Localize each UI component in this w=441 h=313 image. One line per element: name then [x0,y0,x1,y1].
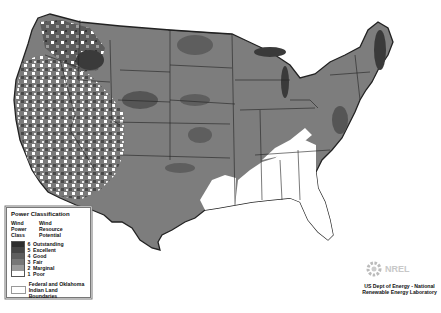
legend-boundary-swatch [11,286,26,294]
wind-zone-plains-3 [188,127,212,143]
wind-zone-plains-1 [177,35,213,55]
wind-zone-montana [76,50,104,70]
wind-zone-wyoming [122,91,158,109]
legend-header: Wind Power Class Wind Resource Potential [11,220,86,238]
legend-class-number: 1 [25,271,33,277]
nrel-logo-icon: NREL [365,260,425,278]
legend-boundary-row: Federal and Oklahoma Indian Land Boundar… [11,281,86,299]
wind-zone-appalachian [332,106,348,134]
credit-text: US Dept of Energy - National Renewable E… [362,283,437,295]
wind-zone-lake-superior [254,47,286,57]
wind-zone-new-england [374,30,386,70]
legend-class-label: Poor [33,271,45,277]
legend-col2-line3: Potential [39,232,59,238]
legend-swatch-1 [11,271,25,277]
legend-panel: Power Classification Wind Power Class Wi… [6,207,91,298]
legend-col1-line3: Class [11,232,31,238]
credit-line-2: Renewable Energy Laboratory [362,289,437,295]
legend-boundary-label-2: Indian Land Boundaries [29,287,86,299]
legend-row-class-1: 1 Poor [11,271,86,277]
wind-zone-oklahoma [165,163,195,173]
wind-zone-lake-michigan [281,66,289,98]
wind-zone-plains-2 [180,94,210,106]
legend-title: Power Classification [11,211,86,217]
svg-text:NREL: NREL [385,264,410,274]
